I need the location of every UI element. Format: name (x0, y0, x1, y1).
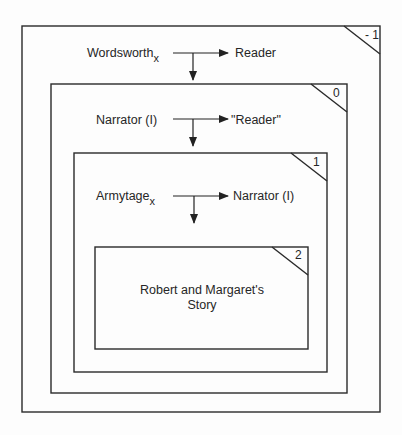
level-label-0: 0 (333, 86, 340, 100)
sender-narrator: Narrator (I) (96, 113, 157, 127)
level-label-1: 1 (313, 155, 320, 169)
story-text: Robert and Margaret's Story (95, 283, 309, 313)
sender-armytage: Armytagex (96, 189, 155, 203)
receiver-narrator: Narrator (I) (233, 189, 294, 203)
corner-divider-0 (311, 84, 347, 112)
nested-frames-diagram (0, 0, 402, 435)
corner-divider-1 (291, 153, 327, 181)
corner-divider-2 (272, 247, 308, 275)
level-label-2: 2 (295, 248, 302, 262)
story-line-2: Story (95, 298, 309, 313)
receiver-reader: Reader (235, 46, 276, 60)
sender-wordsworth: Wordsworthx (87, 46, 159, 60)
level-label-minus1: - 1 (365, 28, 379, 42)
story-line-1: Robert and Margaret's (95, 283, 309, 298)
receiver-quoted-reader: "Reader" (231, 113, 281, 127)
frame-level-1 (74, 153, 327, 372)
